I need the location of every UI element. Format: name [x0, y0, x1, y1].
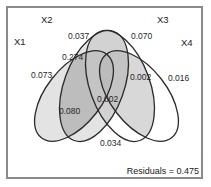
region-value-x3-x4: 0.002 [130, 72, 151, 82]
region-value-x2-x4: 0.034 [100, 138, 121, 148]
region-value-x1-only: 0.073 [31, 70, 52, 80]
venn-diagram-figure: X1 X2 X3 X4 0.073 0.037 0.070 0.016 0.27… [0, 0, 211, 187]
residuals-label: Residuals = 0.475 [127, 166, 199, 176]
region-value-all-sets: 0.002 [97, 94, 118, 104]
set-label-x4: X4 [181, 37, 193, 48]
region-value-x1-x2: 0.274 [62, 52, 83, 62]
set-label-x3: X3 [157, 14, 169, 25]
region-value-x1-x3: 0.080 [59, 106, 80, 116]
set-label-x1: X1 [14, 36, 26, 47]
region-value-x3-only: 0.070 [131, 31, 152, 41]
region-value-x2-only: 0.037 [68, 31, 89, 41]
region-value-x4-only: 0.016 [168, 73, 189, 83]
set-label-x2: X2 [41, 14, 53, 25]
